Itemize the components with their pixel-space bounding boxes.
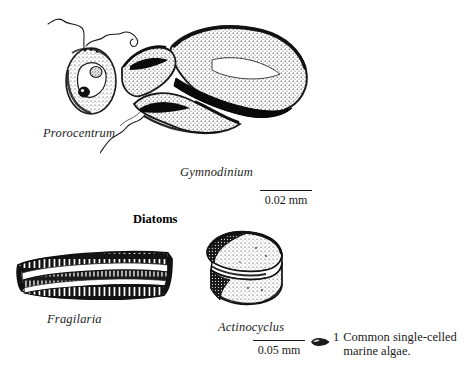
gymnodinium-cell-icon (100, 8, 315, 163)
caption-line-1: Common single-celled (343, 330, 457, 344)
fragilaria-label: Fragilaria (47, 312, 102, 327)
algae-cell-marker-icon (310, 333, 330, 351)
caption-line-2: marine algae. (343, 344, 410, 358)
scale-bar-upper-label: 0.02 mm (255, 193, 317, 208)
scale-bar-upper: 0.02 mm (255, 190, 317, 208)
gymnodinium-label: Gymnodinium (180, 165, 253, 180)
actinocyclus-label: Actinocyclus (218, 320, 284, 335)
caption-text: Common single-celledmarine algae. (343, 330, 457, 358)
caption-number: 1 (333, 330, 339, 345)
gymnodinium-illustration (100, 8, 315, 163)
fragilaria-illustration (12, 243, 182, 305)
diatoms-heading: Diatoms (133, 212, 177, 227)
actinocyclus-illustration (196, 226, 296, 316)
figure-plate: Prorocentrum (0, 0, 475, 383)
fragilaria-frustule-icon (12, 243, 182, 305)
scale-bar-lower: 0.05 mm (248, 340, 310, 358)
scale-bar-lower-label: 0.05 mm (248, 343, 310, 358)
actinocyclus-frustule-icon (196, 226, 296, 316)
scale-bar-upper-rule (260, 190, 312, 191)
scale-bar-lower-rule (253, 340, 305, 341)
figure-caption: 1 Common single-celledmarine algae. (310, 330, 475, 358)
